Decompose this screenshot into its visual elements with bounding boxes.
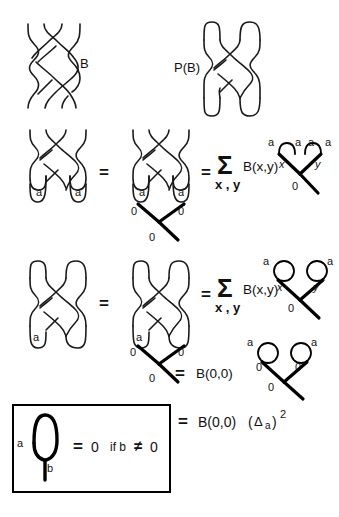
rule-stem-label: b: [47, 462, 53, 474]
result-close-paren: ): [272, 414, 277, 430]
row2-arc-label-2: a: [295, 136, 301, 148]
row4-vertex-label-1: 0: [256, 361, 262, 373]
row3-left-cap-label: a: [33, 331, 39, 343]
row4-loop-label-1: a: [247, 336, 253, 348]
row2-mid-cap-label-1: a: [139, 186, 145, 198]
row3-mid-trivalent-vertex: [126, 342, 196, 386]
row2-left-cap-label-2: a: [75, 186, 81, 198]
row3-right-vertex-label-0: 0: [288, 302, 294, 314]
row3-equals-1: =: [99, 294, 109, 314]
row2-equals-1: =: [99, 163, 109, 183]
row2-mid-vertex-label-1: 0: [131, 205, 137, 217]
row2-sigma-subscript: x , y: [215, 177, 240, 192]
row2-sigma: Σ: [217, 152, 233, 178]
row2-right-vertex-label-0: 0: [292, 180, 298, 192]
result-open-paren: (: [248, 414, 253, 430]
row3-sigma: Σ: [217, 275, 233, 301]
row2-mid-vertex-label-3: 0: [149, 231, 155, 243]
row2-mid-vertex-label-2: 0: [178, 205, 184, 217]
rule-loop-top-label: a: [17, 437, 23, 449]
row4-loop-label-2: a: [311, 336, 317, 348]
figure-canvas: B P(B): [0, 0, 339, 517]
row3-loop-label-2: a: [327, 255, 333, 267]
result-delta: Δ: [254, 414, 263, 429]
row3-sigma-subscript: x , y: [215, 300, 240, 315]
result-exponent: 2: [280, 408, 286, 420]
row4-coefficient: B(0,0): [196, 366, 233, 381]
row3-loop-label-1: a: [263, 255, 269, 267]
row2-right-vertex-label-y: y: [315, 158, 321, 170]
row2-arc-label-3: a: [308, 136, 314, 148]
row2-arc-label-1: a: [268, 136, 274, 148]
row3-equals-2: =: [201, 285, 211, 305]
rule-value: 0: [91, 439, 99, 455]
row2-left-cap-label-1: a: [36, 186, 42, 198]
row2-equals-2: =: [201, 163, 211, 183]
row3-mid-vertex-label-2: 0: [178, 346, 184, 358]
rule-box-loop-diagram: [22, 410, 68, 484]
result-coefficient: B(0,0): [198, 414, 236, 430]
row3-mid-vertex-label-1: 0: [130, 346, 136, 358]
result-equals: =: [178, 412, 188, 432]
row2-mid-cap-label-2: a: [178, 186, 184, 198]
row4-vertex-label-2: 0: [295, 361, 301, 373]
row4-vertex-label-3: 0: [268, 381, 274, 393]
plat-closure-diagram: [196, 18, 268, 120]
row4-equals: =: [175, 364, 185, 384]
row2-right-arc-diagram: [273, 141, 337, 201]
row4-loop-diagram: [252, 340, 322, 402]
rule-equals: =: [73, 437, 83, 457]
row2-left-braid: [22, 128, 94, 212]
row3-mid-vertex-label-3: 0: [149, 372, 155, 384]
braid-b-label: B: [80, 56, 89, 71]
rule-condition-value: 0: [150, 439, 158, 455]
row3-right-vertex-label-x: x: [277, 281, 283, 293]
rule-condition-symbol: ≠: [134, 437, 142, 454]
row2-right-vertex-label-x: x: [279, 158, 285, 170]
rule-condition-prefix: if b: [110, 440, 126, 454]
row3-right-vertex-label-y: y: [313, 281, 319, 293]
result-delta-subscript: a: [265, 420, 271, 431]
row2-arc-label-4: a: [325, 136, 331, 148]
